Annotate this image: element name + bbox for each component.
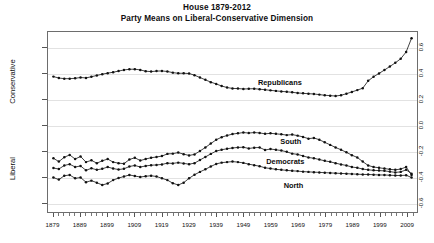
x-tick-mark-minor bbox=[173, 213, 174, 216]
x-tick-mark bbox=[380, 213, 381, 217]
x-tick-mark bbox=[353, 213, 354, 217]
x-tick-mark bbox=[162, 213, 163, 217]
x-tick-mark-minor bbox=[233, 213, 234, 216]
y-axis-title-conservative: Conservative bbox=[8, 51, 17, 111]
x-tick-mark bbox=[243, 213, 244, 217]
x-tick-mark bbox=[298, 213, 299, 217]
x-tick-label: 1939 bbox=[209, 221, 223, 228]
x-tick-mark-minor bbox=[363, 213, 364, 216]
x-tick-mark-minor bbox=[156, 213, 157, 216]
x-tick-mark-minor bbox=[151, 213, 152, 216]
x-tick-label: 1949 bbox=[237, 221, 251, 228]
x-tick-mark-minor bbox=[200, 213, 201, 216]
x-tick-mark bbox=[271, 213, 272, 217]
x-tick-mark bbox=[134, 213, 135, 217]
x-tick-mark-minor bbox=[63, 213, 64, 216]
x-tick-label: 1989 bbox=[346, 221, 360, 228]
x-tick-mark-minor bbox=[282, 213, 283, 216]
x-tick-mark-minor bbox=[69, 213, 70, 216]
x-tick-mark-minor bbox=[260, 213, 261, 216]
x-tick-mark-minor bbox=[227, 213, 228, 216]
x-tick-mark-minor bbox=[123, 213, 124, 216]
x-tick-label: 1909 bbox=[127, 221, 141, 228]
x-tick-mark-minor bbox=[413, 213, 414, 216]
series-label-democrats: Democrats bbox=[266, 157, 304, 166]
x-tick-mark-minor bbox=[374, 213, 375, 216]
plot-area: RepublicansSouthDemocratsNorth bbox=[47, 31, 418, 213]
x-tick-mark-minor bbox=[238, 213, 239, 216]
series-annotations: RepublicansSouthDemocratsNorth bbox=[48, 32, 417, 212]
x-tick-mark-minor bbox=[402, 213, 403, 216]
x-tick-mark-minor bbox=[391, 213, 392, 216]
x-tick-mark-minor bbox=[347, 213, 348, 216]
x-tick-mark-minor bbox=[249, 213, 250, 216]
title-line-2: Party Means on Liberal-Conservative Dime… bbox=[0, 13, 434, 24]
x-tick-mark-minor bbox=[309, 213, 310, 216]
series-label-south: South bbox=[280, 136, 301, 145]
x-tick-mark-minor bbox=[314, 213, 315, 216]
x-tick-mark-minor bbox=[85, 213, 86, 216]
x-tick-mark-minor bbox=[205, 213, 206, 216]
x-tick-mark-minor bbox=[140, 213, 141, 216]
x-tick-mark bbox=[80, 213, 81, 217]
x-tick-mark-minor bbox=[276, 213, 277, 216]
x-tick-mark-minor bbox=[102, 213, 103, 216]
y-axis-title-liberal: Liberal bbox=[8, 138, 17, 198]
x-tick-mark-minor bbox=[96, 213, 97, 216]
x-tick-mark-minor bbox=[113, 213, 114, 216]
x-tick-mark bbox=[189, 213, 190, 217]
x-tick-mark-minor bbox=[369, 213, 370, 216]
x-tick-mark-minor bbox=[74, 213, 75, 216]
x-tick-mark bbox=[53, 213, 54, 217]
x-tick-mark-minor bbox=[287, 213, 288, 216]
x-tick-mark-minor bbox=[293, 213, 294, 216]
x-tick-label: 1999 bbox=[373, 221, 387, 228]
x-tick-label: 2009 bbox=[400, 221, 414, 228]
x-tick-mark-minor bbox=[254, 213, 255, 216]
x-tick-label: 1929 bbox=[182, 221, 196, 228]
x-tick-mark-minor bbox=[118, 213, 119, 216]
x-tick-mark-minor bbox=[342, 213, 343, 216]
series-label-north: North bbox=[284, 180, 304, 189]
x-tick-mark-minor bbox=[167, 213, 168, 216]
x-tick-mark-minor bbox=[183, 213, 184, 216]
chart-figure: House 1879-2012 Party Means on Liberal-C… bbox=[0, 0, 434, 243]
x-tick-mark bbox=[107, 213, 108, 217]
x-tick-label: 1959 bbox=[264, 221, 278, 228]
x-tick-mark-minor bbox=[396, 213, 397, 216]
x-tick-mark-minor bbox=[320, 213, 321, 216]
x-tick-mark bbox=[407, 213, 408, 217]
x-tick-mark-minor bbox=[303, 213, 304, 216]
x-tick-mark-minor bbox=[58, 213, 59, 216]
x-tick-label: 1919 bbox=[155, 221, 169, 228]
x-tick-mark-minor bbox=[336, 213, 337, 216]
x-tick-label: 1979 bbox=[318, 221, 332, 228]
x-tick-label: 1899 bbox=[100, 221, 114, 228]
x-tick-mark bbox=[325, 213, 326, 217]
x-tick-mark-minor bbox=[178, 213, 179, 216]
chart-title: House 1879-2012 Party Means on Liberal-C… bbox=[0, 2, 434, 24]
x-tick-mark-minor bbox=[145, 213, 146, 216]
series-label-republicans: Republicans bbox=[258, 78, 302, 87]
x-tick-label: 1889 bbox=[73, 221, 87, 228]
x-tick-mark bbox=[216, 213, 217, 217]
x-tick-label: 1879 bbox=[46, 221, 60, 228]
title-line-1: House 1879-2012 bbox=[0, 2, 434, 13]
x-tick-mark-minor bbox=[222, 213, 223, 216]
x-tick-mark-minor bbox=[385, 213, 386, 216]
x-tick-mark-minor bbox=[331, 213, 332, 216]
x-tick-mark-minor bbox=[194, 213, 195, 216]
x-tick-mark-minor bbox=[265, 213, 266, 216]
x-tick-mark-minor bbox=[129, 213, 130, 216]
x-tick-mark-minor bbox=[211, 213, 212, 216]
x-tick-mark-minor bbox=[91, 213, 92, 216]
x-tick-label: 1969 bbox=[291, 221, 305, 228]
x-tick-mark-minor bbox=[358, 213, 359, 216]
